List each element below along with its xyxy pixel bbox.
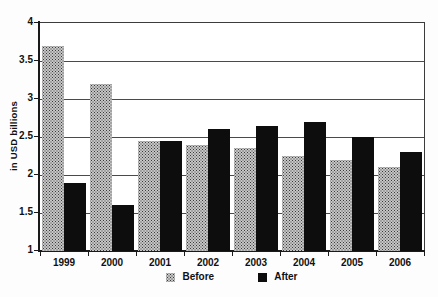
y-tick-mark-2.5 <box>34 136 39 137</box>
y-tick-mark-1.5 <box>34 212 39 213</box>
bar-group-1999 <box>40 23 88 251</box>
x-tick-mark-0 <box>40 252 41 256</box>
y-tick-label-4: 4 <box>3 17 33 27</box>
x-tick-mark-2 <box>136 252 137 256</box>
x-axis-label-2006: 2006 <box>376 257 424 268</box>
bar-before-2001 <box>138 141 160 251</box>
bar-after-2003 <box>256 126 278 251</box>
bar-after-2004 <box>304 122 326 251</box>
x-tick-mark-8 <box>424 252 425 256</box>
bar-before-2005 <box>330 160 352 251</box>
y-tick-label-2.5: 2.5 <box>3 131 33 141</box>
x-tick-mark-6 <box>328 252 329 256</box>
x-axis-label-1999: 1999 <box>40 257 88 268</box>
y-tick-label-3.5: 3.5 <box>3 55 33 65</box>
bar-group-2005 <box>328 23 376 251</box>
legend-swatch-after-icon <box>258 273 267 282</box>
bar-after-2001 <box>160 141 182 251</box>
x-tick-mark-4 <box>232 252 233 256</box>
x-axis-label-2003: 2003 <box>232 257 280 268</box>
y-tick-label-2: 2 <box>3 169 33 179</box>
bar-group-2001 <box>136 23 184 251</box>
bar-before-1999 <box>42 46 64 251</box>
y-tick-mark-3.5 <box>34 60 39 61</box>
x-tick-mark-3 <box>184 252 185 256</box>
y-tick-label-1.5: 1.5 <box>3 207 33 217</box>
y-tick-mark-1 <box>34 250 39 251</box>
bar-after-2000 <box>112 205 134 251</box>
plot-area <box>40 22 425 251</box>
x-tick-mark-5 <box>280 252 281 256</box>
y-tick-mark-2 <box>34 174 39 175</box>
x-tick-mark-1 <box>88 252 89 256</box>
legend: BeforeAfter <box>40 269 424 285</box>
bar-group-2002 <box>184 23 232 251</box>
bar-group-2000 <box>88 23 136 251</box>
legend-label-before: Before <box>182 272 214 282</box>
x-tick-mark-7 <box>376 252 377 256</box>
bar-before-2004 <box>282 156 304 251</box>
x-axis-label-2005: 2005 <box>328 257 376 268</box>
legend-item-after: After <box>258 272 297 282</box>
bar-chart: in USD billions 11.522.533.54 1999200020… <box>0 0 438 297</box>
y-tick-label-3: 3 <box>3 93 33 103</box>
legend-swatch-before-icon <box>166 273 175 282</box>
bar-before-2003 <box>234 148 256 251</box>
legend-label-after: After <box>274 272 297 282</box>
bar-before-2002 <box>186 145 208 251</box>
y-tick-mark-4 <box>34 22 39 23</box>
x-axis-label-2002: 2002 <box>184 257 232 268</box>
x-axis-label-2000: 2000 <box>88 257 136 268</box>
x-axis-label-2001: 2001 <box>136 257 184 268</box>
bar-group-2006 <box>376 23 424 251</box>
bar-group-2004 <box>280 23 328 251</box>
bar-before-2000 <box>90 84 112 251</box>
y-tick-mark-3 <box>34 98 39 99</box>
legend-item-before: Before <box>166 272 214 282</box>
bar-after-2005 <box>352 137 374 251</box>
bar-after-1999 <box>64 183 86 251</box>
bar-group-2003 <box>232 23 280 251</box>
bar-after-2006 <box>400 152 422 251</box>
x-axis-label-2004: 2004 <box>280 257 328 268</box>
bar-before-2006 <box>378 167 400 251</box>
y-tick-label-1: 1 <box>3 245 33 255</box>
bar-after-2002 <box>208 129 230 251</box>
